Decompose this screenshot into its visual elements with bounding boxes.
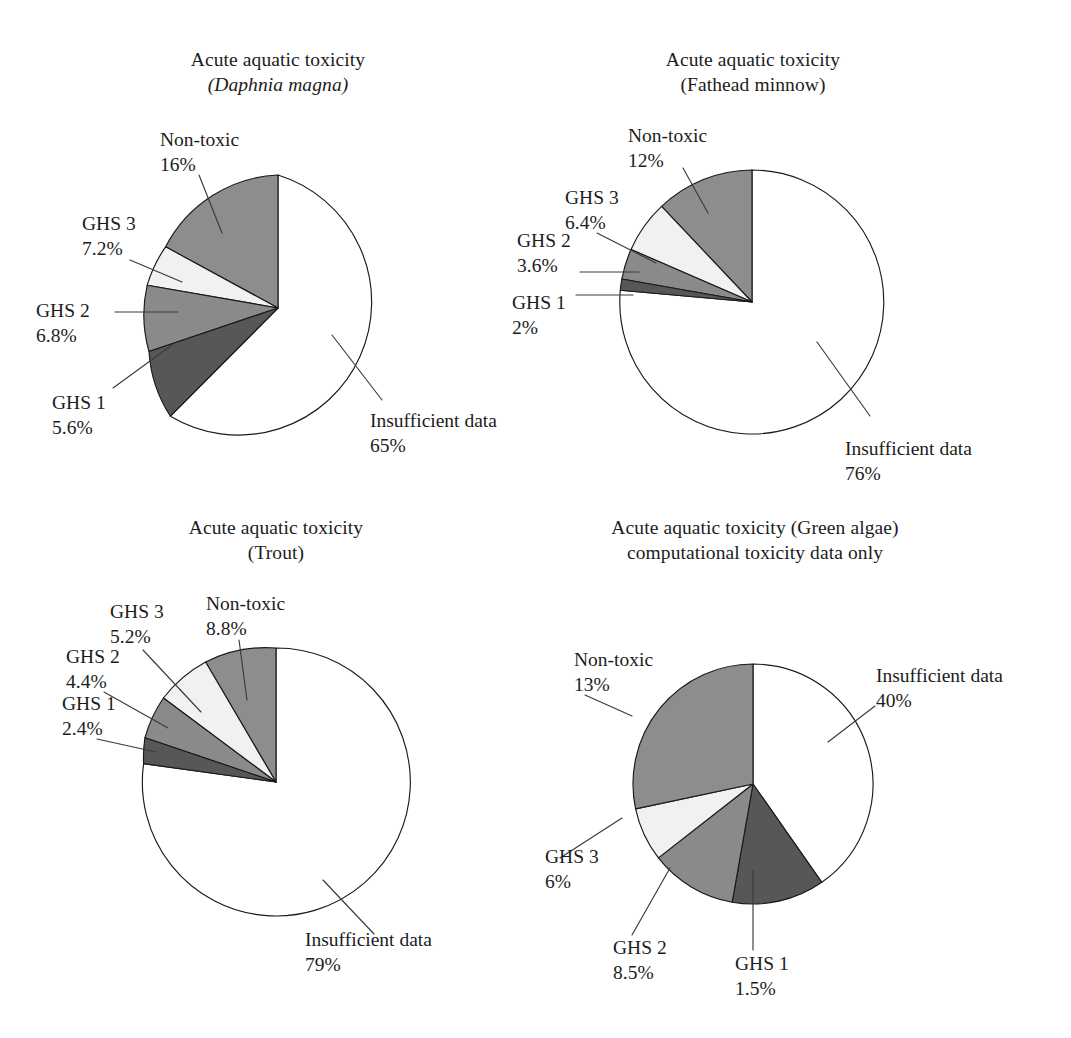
label-non-toxic-green-algae: Non-toxic 13% [574,648,653,697]
panel-title-daphnia: Acute aquatic toxicity (Daphnia magna) [170,48,386,98]
label-value: 6% [545,870,599,895]
label-value: 13% [574,673,653,698]
label-value: 76% [845,462,972,487]
label-ghs-2-trout: GHS 2 4.4% [66,645,120,694]
label-name: GHS 3 [82,212,136,237]
label-non-toxic-fathead: Non-toxic 12% [628,124,707,173]
label-name: Non-toxic [628,124,707,149]
label-value: 16% [160,153,239,178]
label-name: GHS 3 [110,600,164,625]
label-name: Insufficient data [305,928,432,953]
title-line-2: (Daphnia magna) [170,73,386,98]
label-ghs-2-daphnia: GHS 2 6.8% [36,299,90,348]
title-line-2: computational toxicity data only [596,541,914,566]
label-value: 2% [512,316,566,341]
label-ghs-1-fathead: GHS 1 2% [512,291,566,340]
label-ghs-2-fathead: GHS 2 3.6% [517,229,571,278]
label-name: Insufficient data [845,437,972,462]
label-name: GHS 2 [613,936,667,961]
label-insufficient-data-daphnia: Insufficient data 65% [370,409,497,458]
label-ghs-3-trout: GHS 3 5.2% [110,600,164,649]
label-name: GHS 2 [66,645,120,670]
label-name: Insufficient data [370,409,497,434]
label-non-toxic-trout: Non-toxic 8.8% [206,592,285,641]
label-value: 1.5% [735,977,789,1002]
panel-title-trout: Acute aquatic toxicity (Trout) [168,516,384,566]
title-line-1: Acute aquatic toxicity [645,48,861,73]
label-non-toxic-daphnia: Non-toxic 16% [160,128,239,177]
title-line-2: (Trout) [168,541,384,566]
label-name: GHS 1 [62,692,116,717]
panel-title-green-algae: Acute aquatic toxicity (Green algae) com… [596,516,914,566]
label-value: 6.4% [565,211,619,236]
label-value: 3.6% [517,254,571,279]
label-value: 65% [370,434,497,459]
label-ghs-3-daphnia: GHS 3 7.2% [82,212,136,261]
panel-title-fathead: Acute aquatic toxicity (Fathead minnow) [645,48,861,98]
leader-non-toxic [585,695,632,716]
label-ghs-3-fathead: GHS 3 6.4% [565,186,619,235]
label-name: GHS 1 [52,391,106,416]
label-value: 5.6% [52,416,106,441]
label-value: 4.4% [66,670,120,695]
label-insufficient-data-fathead: Insufficient data 76% [845,437,972,486]
label-name: GHS 3 [545,845,599,870]
label-value: 40% [876,689,1003,714]
label-value: 2.4% [62,717,116,742]
label-value: 7.2% [82,237,136,262]
label-name: Non-toxic [574,648,653,673]
label-name: Non-toxic [206,592,285,617]
label-ghs-1-green-algae: GHS 1 1.5% [735,952,789,1001]
label-ghs-3-green-algae: GHS 3 6% [545,845,599,894]
label-value: 12% [628,149,707,174]
label-name: GHS 2 [517,229,571,254]
label-name: GHS 1 [735,952,789,977]
label-value: 8.8% [206,617,285,642]
label-value: 6.8% [36,324,90,349]
label-insufficient-data-green-algae: Insufficient data 40% [876,664,1003,713]
label-value: 79% [305,953,432,978]
label-ghs-1-daphnia: GHS 1 5.6% [52,391,106,440]
label-insufficient-data-trout: Insufficient data 79% [305,928,432,977]
label-name: Non-toxic [160,128,239,153]
figure-four-pie-charts: Acute aquatic toxicity (Daphnia magna) N… [0,0,1071,1038]
label-name: GHS 3 [565,186,619,211]
label-name: GHS 2 [36,299,90,324]
pie-chart-fathead [500,120,1060,470]
label-ghs-1-trout: GHS 1 2.4% [62,692,116,741]
title-line-1: Acute aquatic toxicity (Green algae) [596,516,914,541]
label-name: Insufficient data [876,664,1003,689]
title-line-2: (Fathead minnow) [645,73,861,98]
leader-ghs-2 [632,868,670,935]
title-line-1: Acute aquatic toxicity [168,516,384,541]
label-value: 8.5% [613,961,667,986]
title-line-1: Acute aquatic toxicity [170,48,386,73]
label-ghs-2-green-algae: GHS 2 8.5% [613,936,667,985]
label-name: GHS 1 [512,291,566,316]
